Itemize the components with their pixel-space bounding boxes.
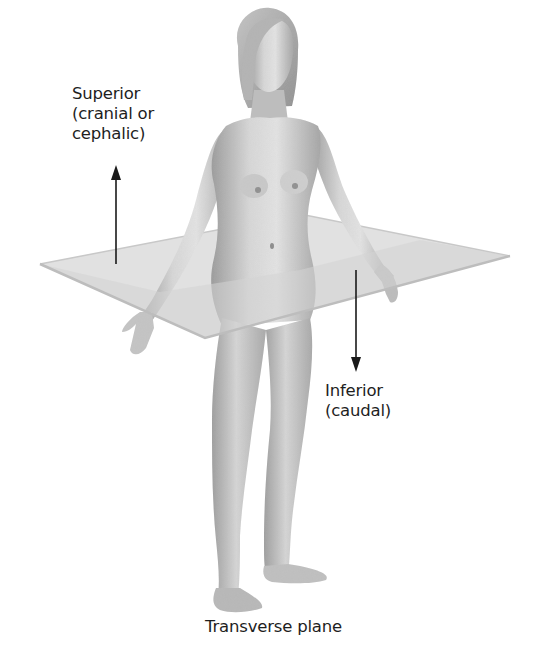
transverse-plane-diagram: Superior (cranial or cephalic) Inferior … [0,0,547,649]
superior-label-line-3: cephalic) [72,124,154,144]
inferior-label-line-2: (caudal) [325,401,391,421]
inferior-label-line-1: Inferior [325,381,391,401]
superior-label-line-1: Superior [72,84,154,104]
superior-label: Superior (cranial or cephalic) [72,84,154,144]
inferior-label: Inferior (caudal) [325,381,391,421]
diagram-caption: Transverse plane [0,617,547,636]
superior-label-line-2: (cranial or [72,104,154,124]
